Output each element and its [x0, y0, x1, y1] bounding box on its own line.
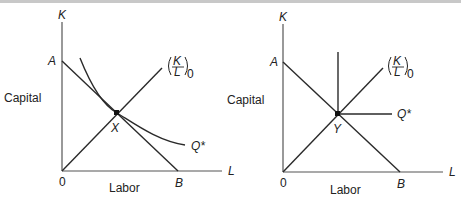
left-origin-label: 0	[59, 175, 66, 189]
right-corner-point	[335, 111, 340, 116]
left-panel: K L A B 0 Capital Labor X Q* K L 0	[4, 8, 235, 195]
left-isocost-line	[62, 61, 178, 171]
right-capital-title: Capital	[227, 93, 264, 107]
left-a-label: A	[47, 54, 56, 68]
right-origin-label: 0	[280, 176, 287, 190]
left-ray-l: L	[174, 65, 181, 79]
left-b-label: B	[175, 176, 183, 190]
left-point-x-label: X	[110, 121, 120, 135]
left-ray-label: K L 0	[169, 54, 195, 81]
right-b-label: B	[397, 177, 405, 191]
right-l-axis-label: L	[449, 165, 456, 179]
right-labor-title: Labor	[330, 183, 361, 197]
right-k-axis-label: K	[279, 10, 288, 24]
right-ray-l: L	[394, 65, 401, 79]
right-panel: K L A B 0 Capital Labor Y Q* K L 0	[227, 10, 456, 197]
left-expansion-ray	[62, 68, 162, 171]
right-point-y-label: Y	[333, 122, 342, 136]
left-isoquant-label: Q*	[191, 139, 205, 153]
isoquant-diagrams: K L A B 0 Capital Labor X Q* K L 0 K L A…	[0, 0, 461, 208]
left-l-axis-label: L	[228, 164, 235, 178]
left-k-axis-label: K	[58, 8, 67, 22]
right-isoquant-label: Q*	[397, 107, 411, 121]
left-tangency-point	[114, 110, 119, 115]
right-isocost-line	[283, 62, 400, 172]
right-expansion-ray	[283, 68, 383, 172]
left-ray-subscript: 0	[187, 67, 194, 81]
left-labor-title: Labor	[109, 181, 140, 195]
right-ray-subscript: 0	[407, 67, 414, 81]
left-capital-title: Capital	[4, 91, 41, 105]
right-a-label: A	[269, 55, 278, 69]
right-ray-label: K L 0	[389, 54, 415, 81]
